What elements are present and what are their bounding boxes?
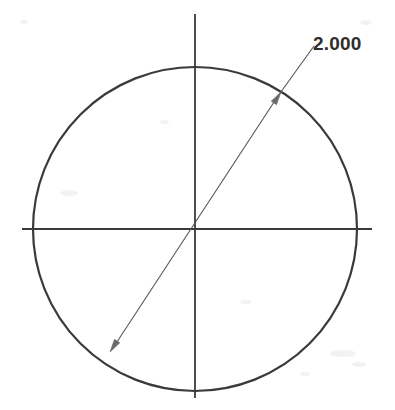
dimension-leader-line[interactable] — [278, 46, 314, 96]
technical-drawing: 2.000 — [0, 0, 395, 410]
arrowhead-upper-right-icon — [271, 92, 281, 105]
arrowhead-lower-left-icon — [110, 339, 120, 352]
drawing-canvas: 2.000 — [0, 0, 395, 410]
diameter-dimension-label[interactable]: 2.000 — [313, 33, 362, 54]
